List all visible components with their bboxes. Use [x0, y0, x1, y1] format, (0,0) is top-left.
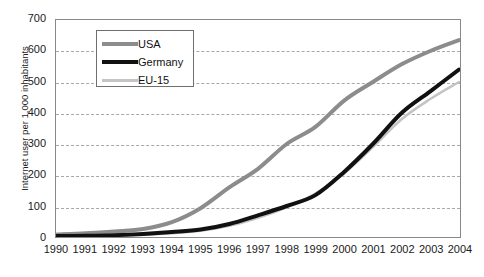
- y-tick-label: 100: [6, 201, 46, 212]
- legend-swatch-eu-15-icon: [102, 79, 138, 82]
- y-tick-label: 200: [6, 169, 46, 180]
- x-axis-tick-labels: 1990199119921993199419951996199719981999…: [55, 243, 461, 263]
- legend-item-usa: USA: [102, 37, 161, 51]
- y-tick-label: 0: [6, 232, 46, 243]
- legend-swatch-germany-icon: [102, 60, 138, 64]
- legend-item-eu-15: EU-15: [102, 73, 169, 87]
- y-tick-label: 500: [6, 76, 46, 87]
- y-tick-label: 400: [6, 107, 46, 118]
- x-tick-label: 2004: [440, 243, 480, 255]
- legend-label: USA: [138, 39, 161, 50]
- legend-swatch-usa-icon: [102, 42, 138, 46]
- y-tick-label: 300: [6, 138, 46, 149]
- series-line-germany: [57, 70, 459, 236]
- legend-item-germany: Germany: [102, 55, 183, 69]
- internet-users-line-chart: Internet user per 1,000 inhabitants 0100…: [0, 0, 484, 277]
- y-tick-label: 600: [6, 44, 46, 55]
- chart-legend: USAGermanyEU-15: [96, 30, 194, 87]
- legend-label: EU-15: [138, 75, 169, 86]
- y-tick-label: 700: [6, 13, 46, 24]
- y-axis-tick-labels: 0100200300400500600700: [10, 0, 46, 277]
- legend-label: Germany: [138, 57, 183, 68]
